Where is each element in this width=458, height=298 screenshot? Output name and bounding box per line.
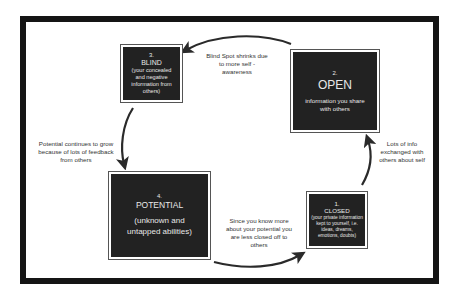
potential-box: 4. POTENTIAL (unknown and untapped abili… [109, 172, 210, 259]
potential-description: (unknown and untapped abilities) [126, 216, 194, 238]
label-blind-to-potential: Potential continues to grow because of l… [36, 140, 116, 164]
closed-title: CLOSED [324, 208, 349, 215]
potential-number: 4. [157, 193, 162, 200]
open-number: 2. [332, 70, 337, 77]
closed-box: 1. CLOSED (your private information kept… [307, 192, 367, 248]
blind-title: BLIND [141, 59, 162, 67]
open-title: OPEN [318, 79, 352, 92]
label-potential-to-closed: Since you know more about your potential… [224, 217, 294, 249]
closed-description: (your private information kept to yourse… [311, 215, 363, 239]
blind-box: 3. BLIND (your concealed and negative in… [121, 45, 182, 102]
potential-title: POTENTIAL [136, 201, 183, 210]
label-open-to-blind: Blind Spot shrinks due to more self - aw… [204, 52, 270, 76]
open-description: information you share with others [299, 97, 371, 113]
label-closed-to-open: Lots of info exchanged with others about… [374, 140, 430, 164]
blind-description: (your concealed and negative information… [127, 67, 177, 95]
open-box: 2. OPEN information you share with other… [291, 50, 379, 132]
blind-number: 3. [149, 52, 154, 59]
